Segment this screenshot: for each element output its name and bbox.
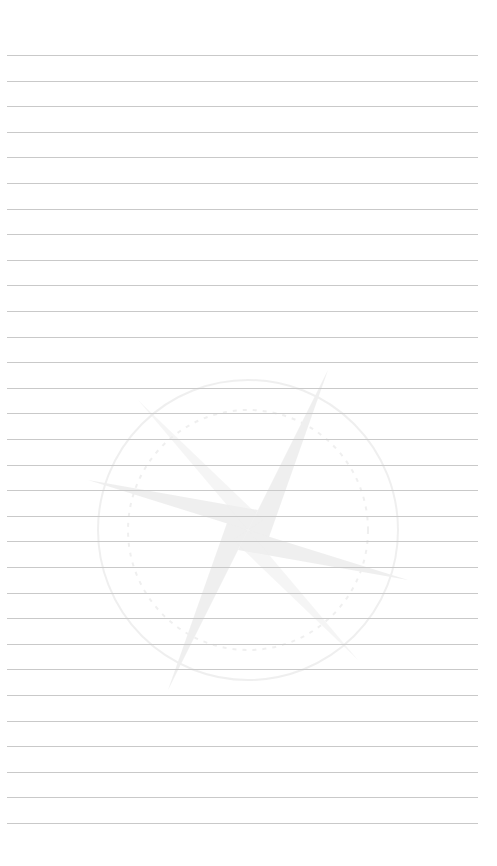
ruled-line [7,81,478,82]
ruled-line [7,285,478,286]
ruled-line [7,695,478,696]
ruled-line [7,669,478,670]
ruled-line [7,618,478,619]
ruled-line [7,644,478,645]
ruled-line [7,209,478,210]
ruled-line [7,157,478,158]
ruled-line [7,132,478,133]
ruled-line [7,311,478,312]
ruled-line [7,823,478,824]
ruled-line [7,516,478,517]
ruled-line [7,772,478,773]
ruled-line [7,593,478,594]
ruled-line [7,797,478,798]
ruled-line [7,388,478,389]
ruled-line [7,490,478,491]
ruled-line [7,567,478,568]
ruled-line [7,106,478,107]
ruled-line [7,260,478,261]
ruled-line [7,362,478,363]
ruled-line [7,337,478,338]
ruled-line [7,234,478,235]
ruled-line [7,413,478,414]
ruled-line [7,721,478,722]
ruled-line [7,439,478,440]
ruled-line [7,465,478,466]
ruled-line [7,55,478,56]
ruled-lines [0,0,497,866]
ruled-line [7,746,478,747]
ruled-line [7,541,478,542]
ruled-line [7,183,478,184]
lined-paper-page [0,0,497,866]
